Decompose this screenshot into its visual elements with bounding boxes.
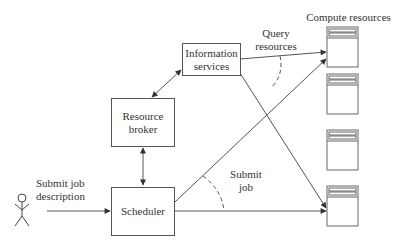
resource-broker-label-1: Resource [123, 110, 164, 123]
compute-resource-2 [327, 74, 358, 114]
scheduler-node: Scheduler [111, 187, 175, 236]
submit-job-label-2: job [226, 181, 266, 194]
diagram-canvas [0, 0, 397, 249]
resource-broker-label-2: broker [123, 123, 164, 136]
user-icon [15, 194, 29, 226]
compute-resource-4 [327, 186, 358, 226]
information-services-node: Information services [182, 43, 241, 76]
arrow-broker-info [152, 70, 181, 97]
compute-resource-1 [327, 27, 358, 67]
resource-broker-node: Resource broker [111, 98, 175, 147]
submit-job-description-label-2: description [36, 190, 96, 203]
scheduler-label: Scheduler [121, 205, 165, 218]
submit-job-label: Submit job [226, 168, 266, 194]
angle-arc-query [272, 56, 281, 87]
query-resources-label-2: resources [246, 40, 306, 53]
angle-arc-submit [203, 176, 224, 211]
compute-resource-3 [327, 130, 358, 170]
information-services-label-1: Information [185, 47, 238, 60]
arrow-query-resources [240, 52, 326, 59]
submit-job-description-label-1: Submit job [36, 177, 96, 190]
compute-resources-label: Compute resources [300, 11, 397, 24]
information-services-label-2: services [185, 60, 238, 73]
query-resources-label: Query resources [246, 27, 306, 53]
submit-job-description-label: Submit job description [36, 177, 96, 203]
query-resources-label-1: Query [246, 27, 306, 40]
submit-job-label-1: Submit [226, 168, 266, 181]
